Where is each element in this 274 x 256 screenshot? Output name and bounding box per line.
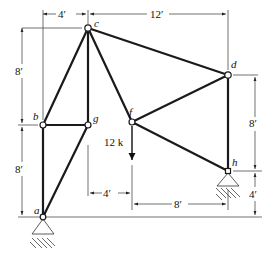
node-g	[85, 122, 91, 128]
pin-support-icon	[32, 219, 54, 234]
member-fh	[132, 122, 228, 171]
truss-canvas: 4′ 12′ 8′ 8′ 8′ 4′ 4′ 8′ 12 k	[0, 0, 274, 256]
support-a	[30, 219, 55, 248]
node-labels: a b c d f g h	[33, 17, 238, 216]
node-f	[129, 119, 135, 125]
dim-bottom-right: 8′	[174, 198, 182, 210]
dim-right-lower: 4′	[249, 188, 257, 200]
member-fd	[132, 75, 228, 122]
label-c: c	[94, 17, 99, 29]
member-ag	[43, 125, 88, 217]
member-cf	[88, 28, 132, 122]
dim-bottom-left: 4′	[103, 187, 111, 199]
node-b	[40, 122, 46, 128]
dim-left-upper: 8′	[15, 65, 23, 77]
label-g: g	[93, 112, 99, 124]
dim-top-left: 4′	[58, 8, 66, 20]
label-f: f	[129, 106, 134, 118]
label-a: a	[34, 204, 40, 216]
label-b: b	[33, 110, 39, 122]
dim-left-lower: 8′	[15, 163, 23, 175]
node-h	[226, 169, 231, 174]
load-label: 12 k	[104, 136, 124, 148]
load-arrow: 12 k	[104, 126, 132, 160]
dim-top-right: 12′	[150, 8, 163, 20]
pin-support-icon	[217, 173, 239, 186]
label-d: d	[231, 58, 237, 70]
truss-diagram: 4′ 12′ 8′ 8′ 8′ 4′ 4′ 8′ 12 k	[0, 0, 274, 256]
truss-nodes	[40, 25, 231, 220]
member-bc	[43, 28, 88, 125]
dim-right-upper: 8′	[249, 117, 257, 129]
node-d	[225, 72, 231, 78]
label-h: h	[232, 156, 238, 168]
node-c	[85, 25, 91, 31]
node-a	[40, 214, 46, 220]
member-cd	[88, 28, 228, 75]
